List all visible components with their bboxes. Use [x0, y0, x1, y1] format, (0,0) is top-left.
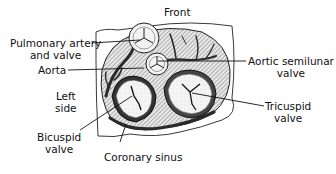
label-front-text: Front — [164, 6, 191, 18]
label-pulmonary-artery: Pulmonary artery and valve — [10, 37, 101, 61]
label-tricuspid: Tricuspid valve — [265, 100, 311, 124]
label-aortic-line1: Aortic semilunar — [248, 55, 334, 67]
label-coronary-sinus: Coronary sinus — [104, 151, 182, 163]
label-aortic-semilunar: Aortic semilunar valve — [248, 55, 334, 79]
label-left-line2: side — [55, 102, 77, 114]
aortic-valve — [146, 53, 168, 75]
label-aortic-line2: valve — [248, 67, 334, 79]
label-front: Front — [164, 6, 191, 18]
label-bicuspid-line2: valve — [37, 143, 81, 155]
label-bicuspid-line1: Bicuspid — [37, 131, 81, 143]
label-left-side: Left side — [55, 90, 77, 114]
label-tricuspid-line2: valve — [265, 112, 311, 124]
pulmonary-valve — [129, 23, 159, 53]
label-bicuspid: Bicuspid valve — [37, 131, 81, 155]
label-aorta: Aorta — [38, 64, 66, 76]
label-coronary-text: Coronary sinus — [104, 151, 182, 163]
label-tricuspid-line1: Tricuspid — [265, 100, 311, 112]
label-pulmonary-line1: Pulmonary artery — [10, 37, 101, 49]
label-pulmonary-line2: and valve — [10, 49, 101, 61]
label-aorta-text: Aorta — [38, 64, 66, 76]
label-left-line1: Left — [55, 90, 77, 102]
